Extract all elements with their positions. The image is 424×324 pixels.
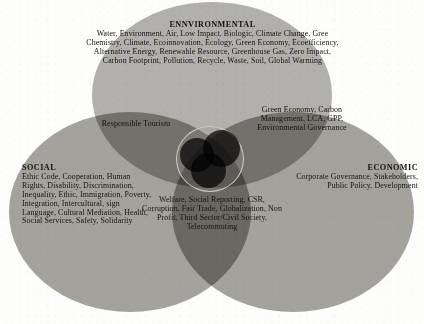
environmental-body: Water, Environment, Air, Low Impact, Bio…	[86, 29, 338, 65]
environmental-heading: ENNVIRONMENTAL	[85, 20, 340, 29]
social-body: Ethic Code, Cooperation, Human Rights, D…	[22, 172, 151, 225]
overlap-environmental-economic-label: Green Economy, Carbon Management, LCA, G…	[246, 106, 358, 133]
social-text-block: SOCIAL Ethic Code, Cooperation, Human Ri…	[22, 163, 152, 226]
overlap-social-environmental-label: Responsible Tourism	[93, 120, 179, 129]
overlap-center-label: Welfare, Social Reporting, CSR, Corrupti…	[142, 196, 282, 231]
economic-text-block: ECONOMIC Corporate Governance, Stakehold…	[286, 163, 418, 191]
economic-body: Corporate Governance, Stakeholders, Publ…	[296, 172, 418, 190]
rosette-circle-economic	[191, 153, 226, 188]
economic-heading: ECONOMIC	[286, 163, 418, 172]
venn-diagram: ENNVIRONMENTAL Water, Environment, Air, …	[0, 0, 424, 324]
center-rosette	[176, 126, 244, 192]
social-heading: SOCIAL	[22, 163, 152, 172]
environmental-text-block: ENNVIRONMENTAL Water, Environment, Air, …	[85, 20, 340, 66]
